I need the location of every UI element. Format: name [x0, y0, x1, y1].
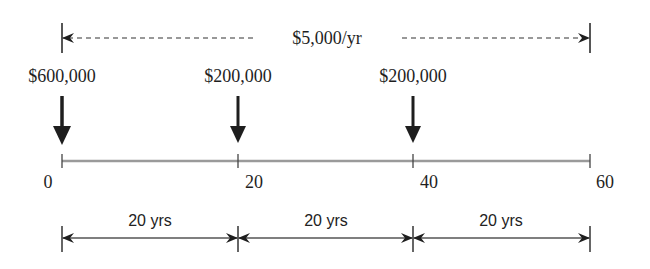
down-arrow-head-icon: [53, 126, 71, 145]
intervals: 20 yrs 20 yrs 20 yrs: [62, 212, 590, 252]
withdrawal-0: $600,000: [28, 66, 96, 145]
interval-label: 20 yrs: [128, 212, 172, 229]
down-arrow-head-icon: [230, 126, 246, 143]
withdrawal-amount: $200,000: [379, 66, 447, 86]
tick-label-20: 20: [245, 172, 263, 192]
tick-label-0: 0: [44, 172, 53, 192]
annuity-bracket: $5,000/yr: [62, 23, 590, 53]
interval-label: 20 yrs: [304, 212, 348, 229]
cash-flow-diagram: $5,000/yr $600,000 $200,000 $200,000 0 2…: [0, 0, 650, 269]
timeline: 0 20 40 60: [44, 154, 615, 192]
withdrawal-amount: $200,000: [204, 66, 272, 86]
annuity-label: $5,000/yr: [292, 28, 362, 48]
withdrawal-amount: $600,000: [28, 66, 96, 86]
down-arrow-head-icon: [405, 126, 421, 143]
withdrawal-40: $200,000: [379, 66, 447, 143]
tick-label-60: 60: [596, 172, 614, 192]
interval-label: 20 yrs: [479, 212, 523, 229]
withdrawal-20: $200,000: [204, 66, 272, 143]
tick-label-40: 40: [420, 172, 438, 192]
